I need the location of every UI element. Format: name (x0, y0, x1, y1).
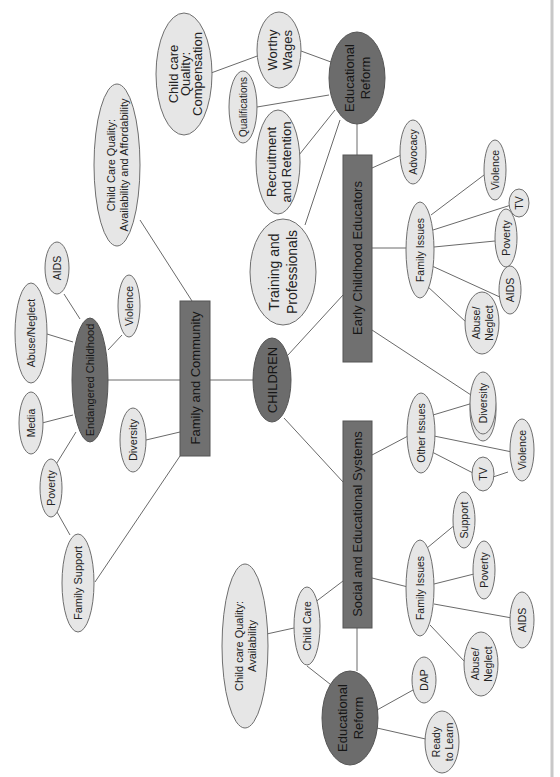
node-ece-fi-violence[interactable]: Violence (484, 140, 506, 200)
node-children-label: CHILDREN (265, 347, 280, 413)
node-childcare-avail-afford[interactable]: Child Care Quality: Availability and Aff… (94, 84, 140, 246)
node-ses-fi-poverty[interactable]: Poverty (473, 541, 495, 599)
node-childcare-avail-afford-line1: Child Care Quality: (105, 119, 117, 211)
node-advocacy-label: Advocacy (407, 128, 419, 174)
node-ses-fi-support[interactable]: Support (453, 492, 475, 548)
node-ses-edu-reform-line2: Reform (351, 697, 366, 740)
node-family-support-label: Family Support (72, 546, 84, 620)
node-qualifications-label: Qualifications (238, 77, 249, 137)
node-social-educational-systems[interactable]: Social and Educational Systems (343, 421, 372, 628)
node-training-line1: Training and (266, 233, 282, 310)
node-ec-abuse[interactable]: Abuse/Neglect (15, 283, 47, 383)
node-early-childhood-educators[interactable]: Early Childhood Educators (343, 155, 372, 362)
node-ses-childcare-avail-line1: Child care Quality: (233, 601, 245, 691)
node-ses-oi-tv[interactable]: TV (472, 457, 494, 491)
node-ses-dap-label: DAP (418, 669, 430, 691)
node-ses-other-issues[interactable]: Other Issues (407, 393, 435, 473)
node-ses-oi-tv-label: TV (477, 467, 489, 480)
node-training-professionals[interactable]: Training and Professionals (250, 219, 316, 325)
node-ses-child-care-label: Child Care (301, 601, 313, 651)
node-ece-fi-tv-label: TV (513, 196, 525, 209)
node-ec-aids[interactable]: AIDS (45, 242, 69, 294)
node-ses-child-care[interactable]: Child Care (294, 587, 320, 665)
node-advocacy[interactable]: Advocacy (400, 120, 426, 184)
node-ece-fi-abuse-line2: Neglect (483, 305, 495, 341)
node-ece-fi-aids[interactable]: AIDS (499, 266, 521, 314)
node-ses-fi-abuse[interactable]: Abuse/ Neglect (464, 632, 498, 696)
node-ec-media[interactable]: Media (19, 392, 43, 454)
node-ses-edu-reform[interactable]: Educational Reform (322, 671, 378, 765)
node-ses-fi-support-label: Support (458, 502, 470, 539)
node-ec-abuse-label: Abuse/Neglect (25, 299, 37, 367)
node-ece-family-issues-label: Family Issues (414, 218, 426, 282)
node-recruitment-line2: and Retention (279, 122, 294, 203)
node-ses-edu-reform-line1: Educational (335, 684, 350, 752)
node-ec-violence-label: Violence (123, 286, 135, 326)
node-ece-fi-abuse[interactable]: Abuse/ Neglect (465, 292, 499, 354)
node-ses-other-issues-label: Other Issues (415, 403, 427, 463)
node-family-community-label: Family and Community (188, 311, 203, 444)
node-ec-aids-label: AIDS (51, 256, 63, 281)
node-ece-fi-poverty-label: Poverty (500, 219, 512, 255)
node-ses-childcare-avail[interactable]: Child care Quality: Availability (222, 564, 268, 728)
node-compensation-line3: Compensation (190, 32, 205, 116)
node-ece-fi-aids-label: AIDS (504, 278, 516, 303)
node-endangered-childhood-label: Endangered Childhood (84, 324, 96, 437)
node-ses-ready-line2: to Learn (443, 723, 455, 762)
concept-map: CHILDREN Family and Community Child Care… (0, 0, 560, 777)
node-ses-ready-to-learn[interactable]: Ready to Learn (425, 711, 459, 773)
node-ses-fi-aids-label: AIDS (516, 608, 528, 633)
node-ses-oi-violence-label: Violence (516, 430, 528, 470)
node-ses-fi-abuse-line2: Neglect (482, 646, 494, 682)
node-training-line2: Professionals (284, 230, 300, 314)
node-ec-media-label: Media (25, 409, 37, 438)
node-worthy-wages-line2: Wages (280, 30, 295, 70)
node-ece-fi-poverty[interactable]: Poverty (495, 209, 517, 267)
node-compensation[interactable]: Child care Quality: Compensation (156, 13, 212, 135)
node-worthy-wages[interactable]: Worthy Wages (257, 12, 301, 88)
node-ses-dap[interactable]: DAP (412, 657, 436, 703)
node-ses-fi-poverty-label: Poverty (478, 551, 490, 587)
node-ses-oi-diversity[interactable]: Diversity (470, 372, 496, 434)
node-children[interactable]: CHILDREN (253, 338, 291, 422)
node-ses-fi-abuse-line1: Abuse/ (469, 648, 481, 681)
node-ec-poverty-label: Poverty (45, 469, 57, 505)
node-ec-poverty[interactable]: Poverty (40, 459, 62, 517)
node-childcare-avail-afford-line2: Availability and Affordability (118, 98, 130, 231)
node-qualifications[interactable]: Qualifications (229, 71, 257, 143)
node-ece-edu-reform-line2: Reform (358, 57, 373, 100)
node-ses-oi-violence[interactable]: Violence (510, 419, 534, 481)
node-endangered-childhood[interactable]: Endangered Childhood (72, 318, 108, 442)
node-fc-diversity[interactable]: Diversity (120, 408, 146, 472)
node-worthy-wages-line1: Worthy (265, 29, 280, 70)
node-ses-fi-aids[interactable]: AIDS (510, 592, 534, 648)
node-recruitment-retention[interactable]: Recruitment and Retention (256, 110, 300, 214)
node-recruitment-line1: Recruitment (264, 127, 279, 197)
node-family-support[interactable]: Family Support (62, 534, 94, 632)
node-ses-oi-diversity-label: Diversity (477, 382, 489, 423)
node-ses-childcare-avail-line2: Availability (246, 620, 258, 672)
node-ece-edu-reform[interactable]: Educational Reform (329, 32, 385, 124)
node-ses-family-issues[interactable]: Family Issues (406, 540, 434, 636)
node-ece-family-issues[interactable]: Family Issues (406, 202, 434, 298)
node-social-educational-systems-label: Social and Educational Systems (350, 431, 365, 617)
node-ses-family-issues-label: Family Issues (414, 556, 426, 620)
node-early-childhood-educators-label: Early Childhood Educators (350, 181, 365, 335)
node-fc-diversity-label: Diversity (127, 418, 139, 461)
node-family-community[interactable]: Family and Community (180, 301, 210, 456)
node-ece-fi-violence-label: Violence (489, 150, 501, 190)
node-ece-fi-abuse-line1: Abuse/ (470, 307, 482, 340)
node-ece-edu-reform-line1: Educational (342, 44, 357, 112)
node-ec-violence[interactable]: Violence (118, 275, 140, 337)
node-ses-ready-line1: Ready (430, 726, 442, 757)
